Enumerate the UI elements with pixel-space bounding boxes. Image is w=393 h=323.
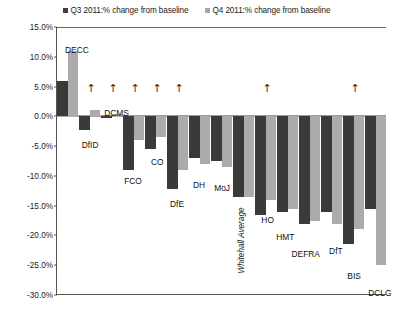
annotation-arrow-icon: ↑ — [351, 83, 358, 94]
bar-q3-hmt — [277, 116, 287, 211]
bar-q3-dfe — [167, 116, 177, 189]
bar-group — [255, 27, 277, 294]
bar-group — [123, 27, 145, 294]
bar-group — [211, 27, 233, 294]
bar-q4-dft — [332, 116, 342, 223]
category-label-defra: DEFRA — [291, 249, 319, 259]
legend-entry-q3: Q3 2011:% change from baseline — [63, 6, 189, 15]
y-axis-tick-label: -5.0% — [32, 142, 53, 151]
bar-q4-whitehall-average — [244, 116, 254, 196]
bar-group — [101, 27, 123, 294]
bar-q3-defra — [299, 116, 309, 223]
bar-group — [79, 27, 101, 294]
bar-q4-dh — [200, 116, 210, 164]
chart-legend: Q3 2011:% change from baseline Q4 2011:%… — [0, 6, 393, 15]
bar-q4-bis — [354, 116, 364, 229]
bar-q3-dfid — [79, 116, 89, 130]
annotation-arrow-icon: ↑ — [131, 83, 138, 94]
bar-q4-defra — [310, 116, 320, 220]
annotation-arrow-icon: ↑ — [87, 83, 94, 94]
bar-q3-whitehall-average — [233, 116, 243, 196]
annotation-arrow-icon: ↑ — [153, 83, 160, 94]
y-axis-tick-label: 0.0% — [34, 112, 53, 121]
legend-label-q4: Q4 2011:% change from baseline — [213, 6, 331, 15]
bar-q4-hmt — [288, 116, 298, 208]
y-axis-tick-label: -10.0% — [27, 171, 53, 180]
bar-q4-dclg — [376, 116, 386, 265]
y-axis-tick-label: -20.0% — [27, 231, 53, 240]
y-axis-tick-label: -25.0% — [27, 261, 53, 270]
bar-q3-decc — [57, 81, 67, 117]
category-label-hmt: HMT — [276, 232, 294, 242]
bar-q4-ho — [266, 116, 276, 199]
bar-group — [57, 27, 79, 294]
legend-label-q3: Q3 2011:% change from baseline — [71, 6, 189, 15]
y-axis-tick-label: -30.0% — [27, 291, 53, 300]
legend-entry-q4: Q4 2011:% change from baseline — [205, 6, 331, 15]
bar-q4-moj — [222, 116, 232, 167]
bar-chart: Q3 2011:% change from baseline Q4 2011:%… — [0, 0, 393, 323]
bar-q4-co — [156, 116, 166, 137]
annotation-arrow-icon: ↑ — [175, 83, 182, 94]
y-axis-tick-label: 15.0% — [30, 23, 53, 32]
bar-q4-dfid — [90, 110, 100, 116]
bar-q3-moj — [211, 116, 221, 161]
legend-swatch-q4-icon — [205, 8, 210, 13]
bar-q3-co — [145, 116, 155, 149]
bar-group — [189, 27, 211, 294]
bar-q4-decc — [68, 51, 78, 117]
bar-q4-fco — [134, 116, 144, 140]
bar-q3-ho — [255, 116, 265, 214]
category-label-co: CO — [151, 157, 164, 167]
category-label-fco: FCO — [124, 176, 142, 186]
category-label-dclg: DCLG — [368, 288, 391, 298]
category-label-dfid: DfID — [82, 140, 99, 150]
y-axis-tick-mark — [54, 295, 57, 296]
annotation-arrow-icon: ↑ — [263, 83, 270, 94]
bar-group — [167, 27, 189, 294]
bar-q3-fco — [123, 116, 133, 170]
bar-group — [343, 27, 365, 294]
category-label-decc: DECC — [65, 45, 89, 55]
bar-q3-dh — [189, 116, 199, 158]
annotation-arrow-icon: ↑ — [109, 83, 116, 94]
category-label-dfe: DfE — [170, 199, 184, 209]
bar-q3-dclg — [365, 116, 375, 208]
category-label-dcms: DCMS — [104, 108, 129, 118]
bar-group — [365, 27, 387, 294]
bar-q4-dfe — [178, 116, 188, 170]
category-label-dft: DfT — [329, 246, 343, 256]
bar-q3-dft — [321, 116, 331, 211]
y-axis-tick-label: -15.0% — [27, 201, 53, 210]
category-label-whitehall-average: Whitehall Average — [237, 208, 246, 274]
category-label-dh: DH — [193, 180, 205, 190]
bar-q3-bis — [343, 116, 353, 244]
y-axis-tick-label: 10.0% — [30, 52, 53, 61]
legend-swatch-q3-icon — [63, 8, 68, 13]
category-label-moj: MoJ — [214, 183, 230, 193]
category-label-ho: HO — [261, 215, 274, 225]
category-label-bis: BIS — [347, 271, 361, 281]
y-axis-tick-label: 5.0% — [34, 82, 53, 91]
